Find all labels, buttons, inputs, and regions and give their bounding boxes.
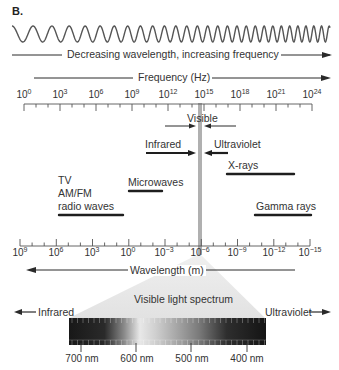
visible-label: Visible [187,112,218,125]
radio-label-line1: TV [58,174,114,187]
nm-label-700: 700 nm [65,354,98,364]
nm-label-400: 400 nm [230,354,263,364]
wl-tick-label: 109 [12,248,27,258]
radio-label-line2: AM/FM [58,187,114,200]
infrared-label: Infrared [145,138,181,151]
wl-tick-label: 10−9 [227,248,246,258]
panel-label: B. [12,6,23,17]
spectrum-infrared-label: Infrared [38,307,74,318]
freq-tick-label: 109 [124,90,139,100]
nm-label-600: 600 nm [120,354,153,364]
freq-tick-label: 106 [88,90,103,100]
wave-caption: Decreasing wavelength, increasing freque… [65,49,281,60]
wl-tick-label: 106 [48,248,63,258]
wl-tick-label: 103 [84,248,99,258]
wavelength-axis-title: Wavelength (m) [128,265,206,276]
freq-tick-label: 103 [52,90,67,100]
radio-label-line3: radio waves [58,200,114,213]
microwaves-label: Microwaves [128,176,183,189]
wl-tick-label: 10−15 [299,248,322,258]
sine-wave [12,26,330,42]
freq-tick-label: 100 [16,90,31,100]
visible-band-bar [198,103,202,255]
freq-tick-label: 1024 [303,90,322,100]
freq-tick-label: 1018 [231,90,250,100]
gamma-rays-label: Gamma rays [256,200,316,213]
spectrum-title: Visible light spectrum [134,294,233,305]
wl-tick-label: 10−12 [263,248,286,258]
spectrum-ultraviolet-label: Ultraviolet [265,307,312,318]
frequency-axis-title: Frequency (Hz) [136,72,212,83]
visible-spectrum-bar [69,318,266,345]
wl-tick-label: 100 [120,248,135,258]
xrays-label: X-rays [228,159,258,172]
radio-waves-label: TV AM/FM radio waves [58,174,114,213]
wl-tick-label: 10−3 [154,248,173,258]
ultraviolet-label: Ultraviolet [214,138,261,151]
freq-tick-label: 1015 [195,90,214,100]
wl-tick-label: 10−6 [190,248,209,258]
freq-tick-label: 1021 [267,90,286,100]
nm-label-500: 500 nm [175,354,208,364]
freq-tick-label: 1012 [159,90,178,100]
